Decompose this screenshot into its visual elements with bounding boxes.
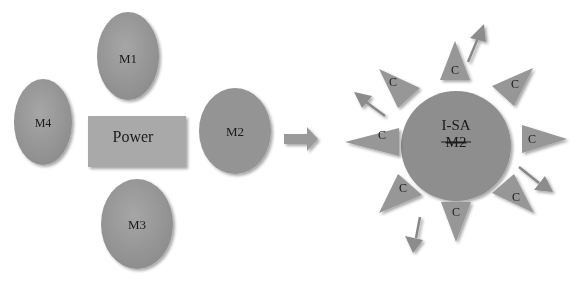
transition-arrow-icon <box>284 127 318 151</box>
satellite-c-label: C <box>511 77 519 91</box>
satellite-c-top: C <box>440 41 470 80</box>
isa-core: I-SA M2 <box>401 91 511 201</box>
module-m1-label: M1 <box>119 51 137 66</box>
power-block: Power <box>88 116 186 167</box>
diagram-canvas: M1 M4 Power M2 M3 <box>0 0 581 281</box>
module-m4: M4 <box>14 79 72 165</box>
isa-core-label: I-SA <box>441 117 470 133</box>
satellite-c-right: C <box>522 125 567 153</box>
module-m1: M1 <box>97 12 159 100</box>
satellite-c-label: C <box>451 63 459 77</box>
satellite-c-label: C <box>389 75 397 89</box>
satellite-c-left: C <box>345 128 399 156</box>
satellite-c-label: C <box>512 190 520 204</box>
outgoing-arrow-icon <box>468 24 486 62</box>
right-cluster: I-SA M2 C C C C <box>345 24 567 253</box>
satellite-c-label: C <box>378 128 386 142</box>
outgoing-arrow-icon <box>519 167 553 192</box>
module-m3-label: M3 <box>128 217 146 232</box>
module-m3: M3 <box>101 179 173 269</box>
satellite-c-label: C <box>528 132 536 146</box>
left-cluster: M1 M4 Power M2 M3 <box>14 12 271 269</box>
satellite-c-label: C <box>399 181 407 195</box>
satellite-c-top-right: C <box>492 68 533 106</box>
outgoing-arrow-icon <box>405 217 423 253</box>
power-label: Power <box>113 128 155 145</box>
module-m2: M2 <box>199 88 271 174</box>
satellite-c-bottom: C <box>441 202 471 242</box>
module-m4-label: M4 <box>35 116 52 130</box>
module-m2-label: M2 <box>226 124 244 139</box>
satellite-c-top-left: C <box>379 69 420 108</box>
outgoing-arrow-icon <box>354 92 385 116</box>
satellite-c-label: C <box>452 205 460 219</box>
